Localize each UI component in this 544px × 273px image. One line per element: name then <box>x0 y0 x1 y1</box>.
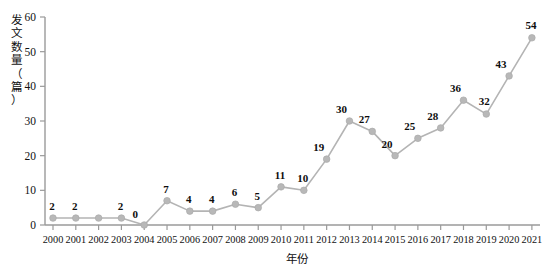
y-axis-tick-group: 0102030405060 <box>25 11 46 231</box>
data-label-group: 222074465111019302720252836324354 <box>49 19 537 220</box>
data-point-marker <box>369 128 376 135</box>
data-point-label: 19 <box>313 141 325 153</box>
y-axis-title-char: 文 <box>8 27 25 40</box>
data-point-label: 2 <box>49 200 55 212</box>
x-axis-tick-label: 2008 <box>225 234 246 245</box>
y-axis-tick-label: 0 <box>30 219 36 231</box>
data-point-marker <box>506 73 513 80</box>
data-point-label: 27 <box>359 113 371 125</box>
data-point-label: 43 <box>496 58 508 70</box>
data-point-label: 10 <box>297 172 309 184</box>
x-axis-tick-label: 2000 <box>43 234 64 245</box>
data-point-marker <box>95 215 102 222</box>
x-axis-tick-label: 2006 <box>180 234 201 245</box>
data-point-marker <box>529 35 536 42</box>
x-axis-tick-label: 2010 <box>271 234 292 245</box>
x-axis-tick-group <box>53 225 532 230</box>
data-point-label: 28 <box>427 110 439 122</box>
data-point-label: 11 <box>275 169 285 181</box>
y-axis-tick-label: 50 <box>25 46 37 58</box>
data-point-marker <box>301 187 308 194</box>
data-point-marker <box>164 197 171 204</box>
data-point-label: 32 <box>479 95 491 107</box>
y-axis-tick-label: 40 <box>25 80 37 92</box>
data-point-marker <box>73 215 80 222</box>
y-axis-title-char: ） <box>8 94 25 107</box>
data-point-label: 2 <box>72 200 78 212</box>
data-point-label: 20 <box>382 138 394 150</box>
data-point-marker <box>460 97 467 104</box>
x-axis-tick-label: 2020 <box>499 234 520 245</box>
x-axis-tick-label: 2001 <box>66 234 87 245</box>
data-point-label: 54 <box>525 19 537 31</box>
x-axis-label-group: 2000200120022003200420052006200720082009… <box>43 234 542 245</box>
data-point-marker <box>232 201 239 208</box>
y-axis-title-char: 篇 <box>8 81 25 94</box>
y-axis-tick-label: 10 <box>25 184 37 196</box>
data-point-label: 25 <box>404 120 416 132</box>
x-axis-tick-label: 2021 <box>522 234 543 245</box>
y-axis-tick-label: 30 <box>25 115 37 127</box>
x-axis-tick-label: 2011 <box>294 234 314 245</box>
x-axis-tick-label: 2002 <box>88 234 109 245</box>
series-line-publication-count <box>53 38 532 225</box>
x-axis-tick-label: 2004 <box>134 234 155 245</box>
x-axis-tick-label: 2018 <box>453 234 474 245</box>
y-axis-tick-label: 60 <box>25 11 37 23</box>
data-point-label: 36 <box>450 82 462 94</box>
x-axis-tick-label: 2012 <box>316 234 337 245</box>
x-axis-title: 年份 <box>286 252 309 266</box>
data-point-marker <box>278 184 285 191</box>
data-point-marker <box>118 215 125 222</box>
data-point-marker <box>209 208 216 215</box>
y-axis-title-char: 发 <box>8 14 25 27</box>
x-axis-tick-label: 2015 <box>385 234 406 245</box>
y-axis-tick-label: 20 <box>25 150 37 162</box>
data-point-marker <box>346 118 353 125</box>
x-axis-tick-label: 2007 <box>202 234 223 245</box>
data-point-label: 7 <box>163 183 169 195</box>
publication-count-line-chart: 发文数量（篇） 0102030405060 222074465111019302… <box>0 0 544 273</box>
data-point-marker <box>255 204 262 211</box>
data-point-marker <box>141 222 148 229</box>
x-axis-tick-label: 2019 <box>476 234 497 245</box>
chart-canvas: 0102030405060 22207446511101930272025283… <box>0 0 544 273</box>
x-axis-tick-label: 2017 <box>430 234 451 245</box>
data-point-marker <box>187 208 194 215</box>
y-axis-title-char: 数 <box>8 41 25 54</box>
x-axis-tick-label: 2003 <box>111 234 132 245</box>
x-axis-tick-label: 2013 <box>339 234 360 245</box>
data-point-marker <box>323 156 330 163</box>
data-point-label: 2 <box>118 200 124 212</box>
data-point-label: 6 <box>232 186 238 198</box>
y-axis-title: 发文数量（篇） <box>8 14 25 108</box>
data-point-label: 30 <box>336 103 348 115</box>
data-point-marker <box>392 152 399 159</box>
data-point-marker <box>415 135 422 142</box>
data-point-marker <box>50 215 57 222</box>
x-axis-tick-label: 2005 <box>157 234 178 245</box>
x-axis-tick-label: 2014 <box>362 234 383 245</box>
data-point-marker <box>483 111 490 118</box>
x-axis-tick-label: 2016 <box>408 234 429 245</box>
data-point-label: 5 <box>254 190 260 202</box>
data-point-marker <box>437 125 444 132</box>
y-axis-title-char: （ <box>8 68 25 81</box>
y-axis-title-char: 量 <box>8 54 25 67</box>
data-point-label: 0 <box>132 208 138 220</box>
x-axis-tick-label: 2009 <box>248 234 269 245</box>
data-point-label: 4 <box>209 193 215 205</box>
data-point-label: 4 <box>186 193 192 205</box>
